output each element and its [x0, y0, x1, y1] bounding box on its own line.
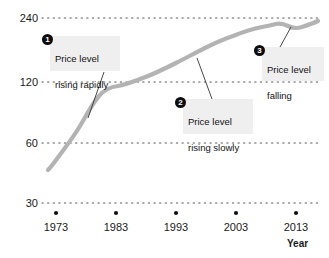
- x-tick-dot-1993: [174, 211, 178, 215]
- x-axis-label-1973: 1973: [31, 221, 81, 233]
- callout-3: Price level falling: [262, 47, 324, 81]
- callout-1: Price level rising rapidly: [50, 36, 120, 71]
- price-level-chart: 240 120 60 30 1973 1983 1993 2003 2013 Y…: [0, 0, 329, 258]
- x-axis-label-1983: 1983: [91, 221, 141, 233]
- callout-2-line2: rising slowly: [188, 142, 239, 153]
- x-axis-label-2013: 2013: [271, 221, 321, 233]
- y-axis-label-60: 60: [8, 137, 38, 149]
- x-axis-label-1993: 1993: [151, 221, 201, 233]
- callout-2: Price level rising slowly: [183, 99, 253, 134]
- x-axis-label-2003: 2003: [211, 221, 261, 233]
- leader-line-2: [197, 58, 212, 99]
- callout-2-line1: Price level: [188, 116, 232, 127]
- x-tick-dots: [54, 211, 298, 215]
- callout-1-line2: rising rapidly: [55, 79, 108, 90]
- leader-line-3: [280, 27, 291, 47]
- callout-badge-2: 2: [175, 97, 186, 108]
- callout-1-line1: Price level: [55, 53, 99, 64]
- x-tick-dot-1983: [114, 211, 118, 215]
- y-axis-label-30: 30: [8, 197, 38, 209]
- callout-badge-1: 1: [42, 34, 53, 45]
- x-tick-dot-1973: [54, 211, 58, 215]
- callout-3-line2: falling: [267, 90, 292, 101]
- x-axis-title: Year: [287, 238, 308, 249]
- callout-3-line1: Price level: [267, 64, 311, 75]
- y-axis-label-120: 120: [8, 76, 38, 88]
- callout-badge-3: 3: [254, 45, 265, 56]
- x-tick-dot-2013: [294, 211, 298, 215]
- x-tick-dot-2003: [234, 211, 238, 215]
- y-axis-label-240: 240: [8, 12, 38, 24]
